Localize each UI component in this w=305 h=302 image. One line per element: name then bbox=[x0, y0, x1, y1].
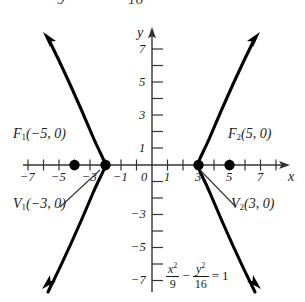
hyperbola-equation: x2 9 − y2 16 = 1 bbox=[166, 262, 229, 290]
x-tick-label-minus1: −1 bbox=[113, 171, 128, 184]
focus-2-label-letter: F bbox=[228, 126, 237, 141]
denominator-9: 9 bbox=[168, 277, 178, 290]
focus-2-label: F2(5, 0) bbox=[228, 127, 271, 142]
x-axis-label: x bbox=[288, 170, 294, 184]
y-tick-label-minus7: −7 bbox=[131, 274, 146, 287]
x-tick-label-minus7: −7 bbox=[20, 171, 35, 184]
y-tick-label-5: 5 bbox=[139, 76, 145, 89]
y-squared-numerator: y2 bbox=[194, 262, 207, 276]
focus-1-label-letter: F bbox=[13, 126, 22, 141]
y-axis bbox=[148, 27, 156, 292]
vertex-1-label-coords: (−3, 0) bbox=[26, 196, 66, 211]
y-tick-label-minus3: −3 bbox=[131, 208, 146, 221]
x-tick-label-minus5: −5 bbox=[51, 171, 66, 184]
focus-2-dot bbox=[224, 160, 234, 170]
equation-rhs: 1 bbox=[222, 268, 229, 284]
hyperbola-figure: 9 16 bbox=[0, 0, 305, 302]
x-tick-label-7: 7 bbox=[257, 171, 263, 184]
x-squared-over-9-fraction: x2 9 bbox=[166, 262, 179, 290]
y-tick-label-7: 7 bbox=[139, 43, 145, 56]
x-axis bbox=[23, 161, 290, 169]
focus-1-label-coords: (−5, 0) bbox=[26, 126, 66, 141]
focus-2-label-coords: (5, 0) bbox=[241, 126, 271, 141]
y-exponent: 2 bbox=[201, 261, 205, 270]
x-tick-label-minus3: −3 bbox=[82, 171, 97, 184]
x-tick-label-1: 1 bbox=[164, 171, 170, 184]
vertex-1-dot bbox=[100, 160, 110, 170]
vertex-2-dot bbox=[193, 160, 203, 170]
x-squared-numerator: x2 bbox=[166, 262, 179, 276]
x-tick-label-5: 5 bbox=[226, 171, 232, 184]
vertex-1-label: V1(−3, 0) bbox=[13, 197, 66, 212]
origin-label: 0 bbox=[141, 171, 147, 184]
focus-1-dot bbox=[69, 160, 79, 170]
focus-1-label: F1(−5, 0) bbox=[13, 127, 66, 142]
vertex-2-label-coords: (3, 0) bbox=[244, 196, 274, 211]
graph-canvas bbox=[0, 0, 305, 302]
y-axis-label: y bbox=[137, 26, 143, 40]
denominator-16: 16 bbox=[193, 277, 209, 290]
y-squared-over-16-fraction: y2 16 bbox=[193, 262, 209, 290]
equals-sign: = bbox=[212, 268, 219, 284]
x-exponent: 2 bbox=[173, 261, 177, 270]
vertex-1-label-letter: V bbox=[13, 196, 22, 211]
vertex-2-label-letter: V bbox=[231, 196, 240, 211]
x-tick-label-3: 3 bbox=[195, 171, 201, 184]
minus-operator: − bbox=[182, 268, 189, 284]
y-tick-label-1: 1 bbox=[139, 142, 145, 155]
y-tick-label-3: 3 bbox=[139, 109, 145, 122]
y-tick-label-minus5: −5 bbox=[131, 241, 146, 254]
vertex-2-label: V2(3, 0) bbox=[231, 197, 274, 212]
